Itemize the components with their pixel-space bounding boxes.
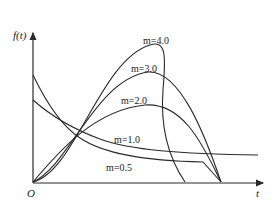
label-m-3.0: m=3.0 [131,63,157,74]
label-m-2.0: m=2.0 [121,95,147,106]
label-m-4.0: m=4.0 [143,35,169,46]
label-m-1.0: m=1.0 [114,134,140,145]
x-axis-label: t [256,187,260,199]
origin-label: O [27,187,35,199]
y-axis-label: f(t) [13,29,27,42]
weibull-density-chart: f(t) t O m=4.0 m=3.0 m=2.0 m=1.0 m=0.5 [0,0,279,210]
label-m-0.5: m=0.5 [106,162,132,173]
